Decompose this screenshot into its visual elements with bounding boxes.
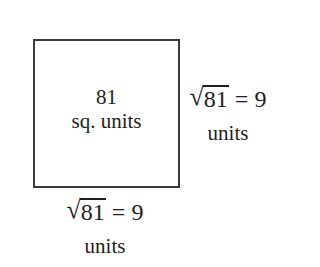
right-side-length-label: √81 = 9	[180, 84, 276, 112]
right-side-unit: units	[180, 122, 276, 144]
radical-icon: √	[190, 84, 204, 110]
square-root-expression: √81	[190, 84, 229, 112]
area-unit: sq. units	[33, 110, 180, 132]
square-root-expression: √81	[67, 197, 106, 225]
bottom-side-length-label: √81 = 9	[57, 197, 153, 225]
radicand: 81	[80, 198, 106, 224]
equation-result: = 9	[106, 199, 144, 225]
equation-result: = 9	[229, 86, 267, 112]
radicand: 81	[203, 85, 229, 111]
bottom-side-unit: units	[57, 235, 153, 257]
radical-icon: √	[67, 197, 81, 223]
area-value: 81	[33, 86, 180, 108]
